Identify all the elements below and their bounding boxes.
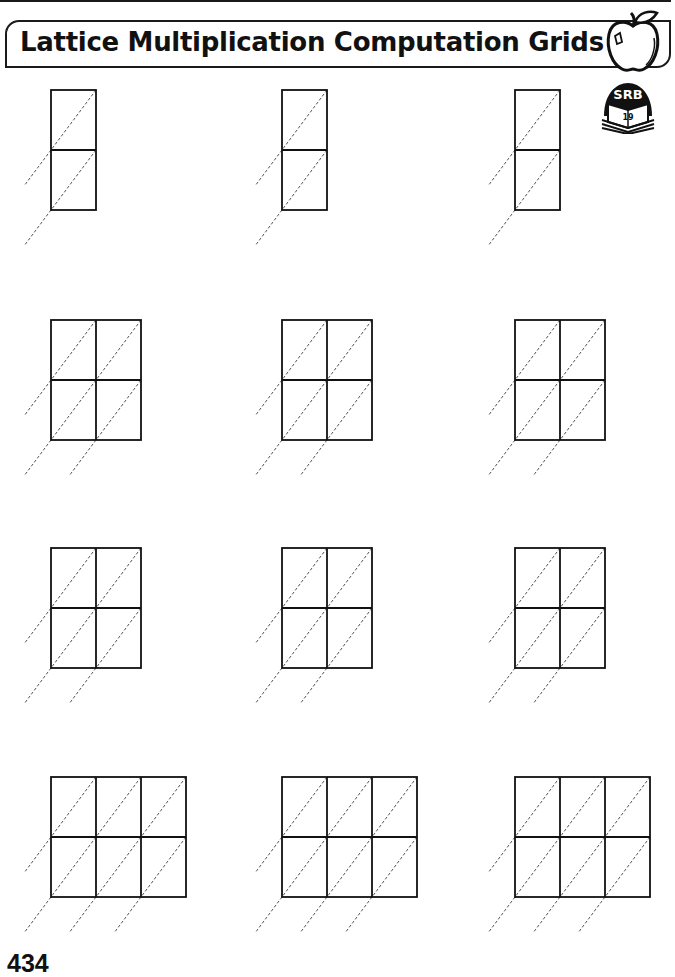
diagonal-line [327,548,372,608]
lattice-grid [488,777,650,933]
diagonal-line [255,608,327,704]
diagonal-line [560,777,605,837]
diagonal-line [24,608,96,704]
page-number: 434 [7,950,49,977]
lattice-grids-area [0,0,675,977]
diagonal-line [488,90,560,186]
diagonal-line [300,380,372,476]
diagonal-line [605,777,650,837]
lattice-grid [24,90,96,246]
lattice-grid [488,548,605,704]
diagonal-line [24,548,96,644]
diagonal-line [255,380,327,476]
diagonal-line [24,90,96,186]
diagonal-line [345,837,417,933]
diagonal-line [300,837,372,933]
diagonal-line [300,608,372,704]
diagonal-line [533,380,605,476]
diagonal-line [488,150,560,246]
diagonal-line [114,837,186,933]
lattice-grid [24,320,141,476]
lattice-grid [255,90,327,246]
diagonal-line [533,837,605,933]
lattice-grid [255,777,417,933]
diagonal-line [24,320,96,416]
diagonal-line [69,608,141,704]
diagonal-line [255,548,327,644]
diagonal-line [255,90,327,186]
diagonal-line [327,777,372,837]
diagonal-line [255,837,327,933]
lattice-grid [24,777,186,933]
diagonal-line [96,777,141,837]
lattice-grid [255,320,372,476]
diagonal-line [24,150,96,246]
diagonal-line [488,548,560,644]
diagonal-line [255,150,327,246]
lattice-grid [488,90,560,246]
diagonal-line [255,320,327,416]
diagonal-line [141,777,186,837]
diagonal-line [560,320,605,380]
lattice-grid [488,320,605,476]
lattice-grid [255,548,372,704]
diagonal-line [69,380,141,476]
diagonal-line [488,380,560,476]
diagonal-line [24,837,96,933]
diagonal-line [327,320,372,380]
lattice-grid [24,548,141,704]
diagonal-line [372,777,417,837]
diagonal-line [69,837,141,933]
diagonal-line [488,837,560,933]
diagonal-line [24,380,96,476]
diagonal-line [488,320,560,416]
diagonal-line [560,548,605,608]
diagonal-line [488,608,560,704]
diagonal-line [24,777,96,873]
diagonal-line [96,320,141,380]
diagonal-line [96,548,141,608]
diagonal-line [578,837,650,933]
diagonal-line [255,777,327,873]
diagonal-line [533,608,605,704]
diagonal-line [488,777,560,873]
